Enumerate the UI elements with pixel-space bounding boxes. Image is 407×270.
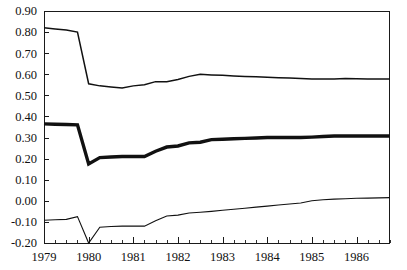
- x-tick-label: 1984: [255, 250, 281, 264]
- series-paths: [44, 28, 390, 243]
- y-tick-label: 0.80: [15, 25, 37, 39]
- plot-frame: [45, 12, 390, 244]
- x-axis-tick-labels: 19791980198119821983198419851986: [32, 250, 370, 264]
- series-line-center-estimate: [44, 124, 390, 164]
- x-tick-label: 1981: [121, 250, 146, 264]
- y-tick-label: 0.20: [15, 152, 37, 166]
- y-tick-label: 0.70: [15, 47, 37, 61]
- axis-ticks: [44, 12, 391, 244]
- x-tick-label: 1979: [32, 250, 57, 264]
- series-line-lower-band: [44, 198, 390, 243]
- y-tick-label: 0.00: [15, 194, 37, 208]
- y-tick-label: 0.40: [15, 110, 37, 124]
- y-axis-tick-labels: -0.20-0.100.000.100.200.300.400.500.600.…: [11, 4, 37, 250]
- y-tick-label: 0.10: [15, 173, 37, 187]
- chart-canvas: -0.20-0.100.000.100.200.300.400.500.600.…: [0, 0, 407, 270]
- y-tick-label: 0.90: [15, 4, 37, 18]
- x-tick-label: 1980: [76, 250, 101, 264]
- x-tick-label: 1983: [210, 250, 235, 264]
- y-tick-label: -0.20: [11, 236, 37, 250]
- plot-border: [45, 12, 390, 244]
- y-tick-label: 0.30: [15, 131, 37, 145]
- x-tick-label: 1986: [344, 250, 369, 264]
- line-chart: -0.20-0.100.000.100.200.300.400.500.600.…: [0, 0, 407, 270]
- x-tick-label: 1985: [299, 250, 324, 264]
- y-tick-label: 0.50: [15, 89, 37, 103]
- y-tick-label: -0.10: [11, 215, 37, 229]
- y-tick-label: 0.60: [15, 68, 37, 82]
- x-tick-label: 1982: [165, 250, 190, 264]
- series-line-upper-band: [44, 28, 390, 88]
